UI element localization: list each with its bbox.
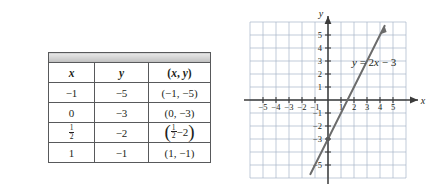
cell-y: −3 [95,103,149,123]
cell-pair-fraction: ( 1 2 −2 ) [149,123,211,143]
ordered-pair-with-fraction: ( 1 2 −2 ) [164,124,194,141]
x-tick-label: 5 [391,102,395,112]
x-axis-label: x [420,95,426,106]
y-tick-label: 1 [318,82,322,92]
cell-pair: (0, −3) [149,103,211,123]
y-tick-label: −1 [313,108,322,118]
cell-x-fraction: 1 2 [49,123,95,143]
cell-y: −2 [95,123,149,143]
column-header-x: x [49,63,95,83]
fraction-denominator: 2 [171,131,177,140]
fraction-numerator: 1 [171,124,177,132]
cell-y: −5 [95,83,149,103]
column-header-xy-pair: (x, y) [149,63,211,83]
x-tick-label: −3 [284,102,293,112]
column-header-y: y [95,63,149,83]
axes [244,16,418,184]
x-tick-label: 3 [365,102,369,112]
point-marker [326,137,331,142]
x-tick-labels: −5 −4 −3 −2 −1 1 2 3 4 5 [258,102,395,112]
cell-x: −1 [49,83,95,103]
table-row: 1 −1 (1, −1) [49,143,211,163]
paren-close: ) [188,67,192,79]
cell-x: 0 [49,103,95,123]
x-tick-label: 2 [352,102,356,112]
table-row: −1 −5 (−1, −5) [49,83,211,103]
pair-y-part: −2 [177,126,189,138]
value-table: x y (x, y) −1 −5 (−1, −5) 0 −3 (0, −3) [48,52,211,163]
fraction-one-half: 1 2 [69,124,75,141]
figure-container: x y (x, y) −1 −5 (−1, −5) 0 −3 (0, −3) [0,0,432,193]
paren-close-large: ) [188,124,194,139]
cell-pair: (−1, −5) [149,83,211,103]
y-tick-label: 3 [318,56,322,66]
cell-x: 1 [49,143,95,163]
y-tick-label: 5 [318,30,322,40]
x-tick-label: −4 [271,102,281,112]
x-tick-label: −2 [297,102,306,112]
x-axis-arrow [410,97,418,104]
y-tick-label: −2 [313,121,322,131]
table-header-row: x y (x, y) [49,63,211,83]
table-row: 0 −3 (0, −3) [49,103,211,123]
y-tick-label: −3 [313,134,322,144]
x-tick-label: −5 [258,102,267,112]
equation-tail: − 3 [379,56,397,68]
x-tick-label: 4 [378,102,383,112]
fraction-one-half: 1 2 [171,124,177,141]
y-tick-label: 2 [318,69,322,79]
fraction-numerator: 1 [69,124,75,132]
cell-y: −1 [95,143,149,163]
equation-label: y = 2x − 3 [351,56,397,68]
value-table-panel: x y (x, y) −1 −5 (−1, −5) 0 −3 (0, −3) [48,52,210,163]
cell-pair: (1, −1) [149,143,211,163]
coordinate-graph-svg: −5 −4 −3 −2 −1 1 2 3 4 5 5 4 3 2 1 −1 −2… [240,4,432,190]
table-header-band [49,53,211,63]
coordinate-graph-panel: −5 −4 −3 −2 −1 1 2 3 4 5 5 4 3 2 1 −1 −2… [240,4,432,190]
equation-eq: = 2 [357,56,374,68]
fraction-denominator: 2 [69,132,75,141]
y-axis-arrow [325,16,332,24]
table-row: 1 2 −2 ( 1 2 −2 ) [49,123,211,143]
table-header-band-cell [49,53,211,63]
y-axis-label: y [318,8,324,19]
